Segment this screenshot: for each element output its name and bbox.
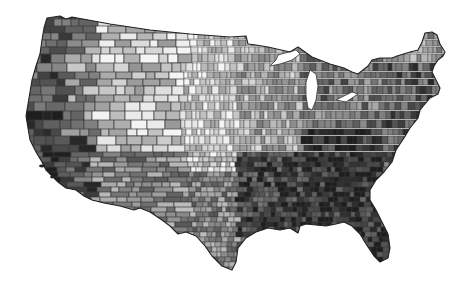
county-cell	[205, 257, 211, 262]
county-cell	[364, 95, 369, 101]
county-cell	[446, 187, 451, 192]
county-cell	[227, 157, 233, 162]
county-cell	[227, 72, 231, 78]
county-cell	[207, 232, 212, 237]
county-cell	[151, 227, 159, 238]
county-cell	[338, 162, 344, 167]
county-cell	[337, 217, 343, 222]
county-cell	[34, 272, 46, 281]
county-cell	[379, 102, 385, 110]
county-cell	[214, 187, 220, 192]
county-cell	[297, 136, 301, 144]
county-cell	[429, 267, 434, 272]
county-cell	[449, 136, 453, 144]
county-cell	[413, 152, 417, 157]
county-cell	[447, 167, 453, 172]
county-cell	[159, 227, 170, 236]
county-cell	[383, 145, 389, 151]
county-cell	[218, 63, 225, 71]
county-cell	[344, 272, 348, 277]
county-cell	[350, 152, 356, 157]
county-cell	[345, 192, 350, 197]
county-cell	[184, 79, 190, 85]
county-cell	[270, 120, 277, 128]
county-cell	[239, 40, 246, 46]
county-cell	[224, 95, 229, 101]
county-cell	[275, 12, 282, 18]
county-cell	[432, 237, 436, 242]
county-cell	[192, 272, 198, 277]
county-cell	[376, 187, 380, 192]
county-cell	[321, 162, 327, 167]
county-cell	[408, 102, 415, 110]
county-cell	[137, 129, 148, 136]
county-cell	[156, 247, 165, 257]
county-cell	[394, 202, 399, 207]
county-cell	[320, 252, 326, 257]
county-cell	[431, 136, 437, 144]
county-cell	[372, 40, 376, 46]
county-cell	[389, 102, 395, 110]
county-cell	[220, 102, 224, 110]
county-cell	[268, 12, 275, 18]
county-cell	[108, 212, 124, 220]
county-cell	[384, 26, 391, 32]
county-cell	[134, 242, 148, 252]
county-cell	[310, 247, 317, 252]
county-cell	[327, 95, 334, 101]
county-cell	[217, 252, 221, 257]
county-cell	[271, 197, 278, 202]
county-cell	[387, 262, 391, 267]
county-cell	[132, 267, 150, 277]
county-cell	[288, 95, 292, 101]
county-cell	[277, 242, 281, 247]
county-cell	[251, 152, 256, 157]
county-cell	[212, 247, 217, 252]
county-cell	[289, 272, 296, 277]
county-cell	[360, 120, 367, 128]
county-cell	[319, 177, 323, 182]
county-cell	[210, 177, 217, 182]
county-cell	[203, 177, 210, 182]
county-cell	[302, 177, 309, 182]
county-cell	[447, 63, 454, 71]
county-cell	[358, 157, 364, 162]
county-cell	[344, 182, 351, 187]
county-cell	[174, 12, 186, 20]
county-cell	[210, 129, 214, 135]
county-cell	[212, 232, 216, 237]
county-cell	[239, 26, 244, 32]
county-cell	[217, 136, 223, 144]
county-cell	[409, 177, 414, 182]
county-cell	[423, 227, 430, 232]
county-cell	[343, 197, 349, 202]
county-cell	[230, 212, 235, 217]
county-cell	[432, 86, 436, 94]
county-cell	[387, 152, 392, 157]
county-cell	[213, 262, 218, 267]
county-cell	[330, 252, 337, 257]
county-cell	[328, 145, 335, 151]
county-cell	[432, 217, 437, 222]
county-cell	[343, 54, 347, 62]
county-cell	[312, 232, 319, 237]
county-cell	[327, 167, 331, 172]
county-cell	[168, 54, 178, 63]
county-cell	[155, 262, 169, 272]
county-cell	[301, 12, 307, 18]
county-cell	[287, 111, 293, 119]
county-cell	[366, 129, 371, 135]
county-cell	[265, 54, 270, 62]
county-cell	[376, 120, 382, 128]
county-cell	[282, 129, 289, 135]
county-cell	[394, 12, 400, 18]
county-cell	[189, 26, 196, 32]
county-cell	[377, 227, 381, 232]
county-cell	[355, 217, 362, 222]
county-cell	[110, 262, 122, 272]
county-cell	[34, 167, 46, 173]
county-cell	[200, 111, 207, 119]
county-cell	[353, 242, 358, 247]
county-cell	[49, 232, 58, 242]
county-cell	[199, 262, 204, 267]
